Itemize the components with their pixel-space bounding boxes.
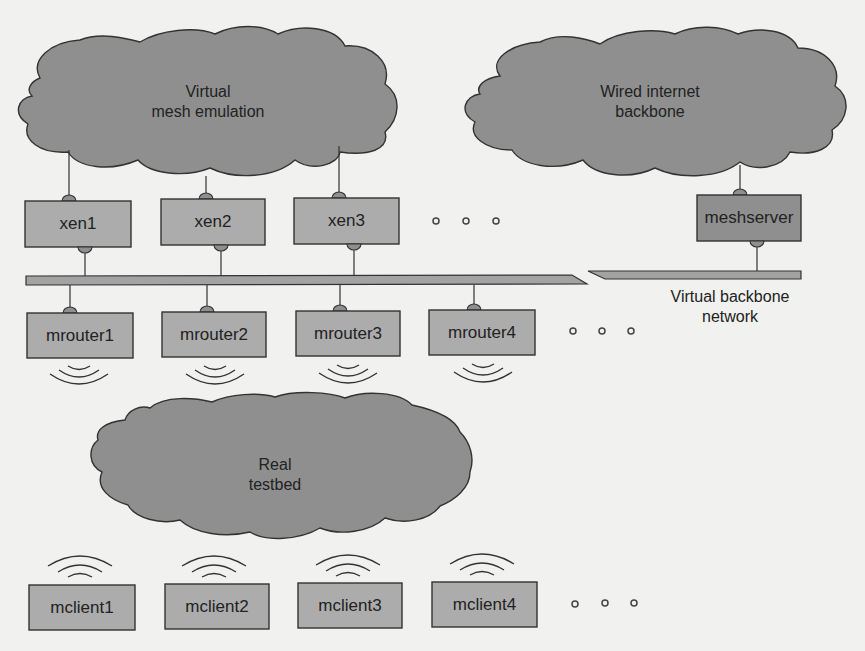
xen1-label: xen1 xyxy=(25,201,131,247)
mclient3-label: mclient3 xyxy=(298,583,402,628)
wireless-icon xyxy=(182,556,246,577)
mclient4-label: mclient4 xyxy=(432,582,537,627)
cloud-label-line2: backbone xyxy=(570,102,730,122)
wireless-icon xyxy=(319,365,377,383)
virtual-backbone-bar-right xyxy=(588,271,801,279)
mclient2-label: mclient2 xyxy=(165,584,269,629)
mrouter3-label: mrouter3 xyxy=(296,311,400,356)
cloud-label-virtual-mesh: Virtual mesh emulation xyxy=(128,82,288,122)
ellipsis-icon xyxy=(572,600,637,607)
cloud-label-wired-backbone: Wired internet backbone xyxy=(570,82,730,122)
wireless-icon xyxy=(454,364,512,382)
wireless-icon xyxy=(450,554,514,575)
cloud-label-line1: Real xyxy=(215,455,335,475)
xen3-label: xen3 xyxy=(294,198,399,244)
cloud-label-line1: Wired internet xyxy=(570,82,730,102)
cloud-label-line2: testbed xyxy=(215,475,335,495)
port-icon xyxy=(78,247,92,253)
ellipsis-icon xyxy=(433,218,499,224)
mrouter4-label: mrouter4 xyxy=(429,310,535,355)
ellipsis-icon xyxy=(570,328,634,334)
port-icon xyxy=(750,241,764,247)
wireless-icon xyxy=(50,366,108,384)
cloud-label-real-testbed: Real testbed xyxy=(215,455,335,495)
cloud-label-line1: Virtual xyxy=(128,82,288,102)
wireless-icon xyxy=(316,555,380,576)
cloud-label-line2: mesh emulation xyxy=(128,102,288,122)
meshserver-label: meshserver xyxy=(697,195,801,241)
xen2-label: xen2 xyxy=(161,199,265,245)
backbone-label-line2: network xyxy=(655,307,805,327)
mclient1-label: mclient1 xyxy=(29,585,135,630)
port-icon xyxy=(214,245,228,251)
backbone-label-line1: Virtual backbone xyxy=(655,287,805,307)
mrouter1-label: mrouter1 xyxy=(27,313,133,358)
wireless-icon xyxy=(186,366,244,384)
backbone-label: Virtual backbone network xyxy=(655,287,805,327)
port-icon xyxy=(347,244,361,250)
wireless-icon xyxy=(48,556,112,577)
virtual-backbone-bar-left xyxy=(26,275,587,285)
mrouter2-label: mrouter2 xyxy=(162,312,266,357)
